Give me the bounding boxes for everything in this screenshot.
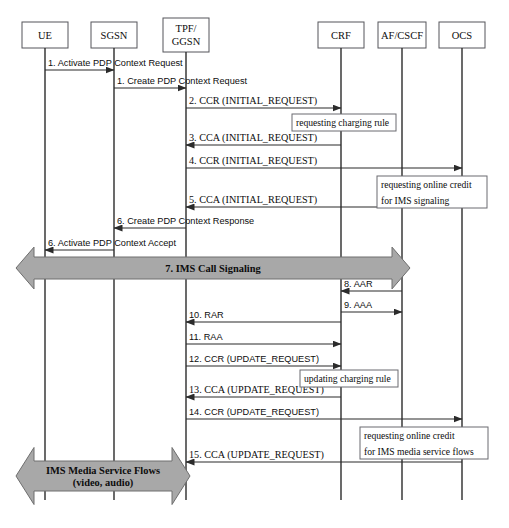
sequence-diagram: UESGSNTPF/GGSNCRFAF/CSCFOCS 1. Activate … xyxy=(0,0,509,528)
note-media-credit: requesting online creditfor IMS media se… xyxy=(360,427,488,459)
band-ims-media-flows-shape xyxy=(16,448,190,505)
note-media-credit-line-0: requesting online credit xyxy=(364,430,455,441)
message-4: 4. CCR (INITIAL_REQUEST) xyxy=(186,155,462,168)
band-ims-media-flows-label-0: IMS Media Service Flows xyxy=(46,465,160,476)
message-label-11: 11. RAA xyxy=(189,332,223,342)
sequence-diagram-canvas: UESGSNTPF/GGSNCRFAF/CSCFOCS 1. Activate … xyxy=(0,0,509,528)
message-label-12: 12. CCR (UPDATE_REQUEST) xyxy=(189,354,319,364)
message-6b: 6. Activate PDP Context Accept xyxy=(45,238,176,250)
message-label-9: 9. AAA xyxy=(344,300,373,310)
note-updating-rule: updating charging rule xyxy=(300,370,398,387)
message-label-1b: 1. Create PDP Context Request xyxy=(117,76,248,86)
message-label-5: 5. CCA (INITIAL_REQUEST) xyxy=(189,194,317,206)
band-ims-media-flows-label-1: (video, audio) xyxy=(73,477,134,489)
band-ims-media-flows: IMS Media Service Flows(video, audio) xyxy=(16,448,190,505)
lifeline-label2-ggsn: GGSN xyxy=(172,36,201,47)
message-10: 10. RAR xyxy=(186,310,341,322)
message-label-8: 8. AAR xyxy=(344,279,373,289)
lifeline-label-sgsn: SGSN xyxy=(101,30,128,41)
note-online-credit-line-0: requesting online credit xyxy=(381,179,472,190)
message-2: 2. CCR (INITIAL_REQUEST) xyxy=(186,95,341,108)
message-label-15: 15. CCA (UPDATE_REQUEST) xyxy=(189,449,324,461)
message-12: 12. CCR (UPDATE_REQUEST) xyxy=(186,354,341,366)
message-label-3: 3. CCA (INITIAL_REQUEST) xyxy=(189,132,317,144)
message-label-4: 4. CCR (INITIAL_REQUEST) xyxy=(189,155,317,167)
band-ims-call-signaling-label-0: 7. IMS Call Signaling xyxy=(165,263,261,274)
message-9: 9. AAA xyxy=(341,300,402,312)
message-label-6: 6. Create PDP Context Response xyxy=(117,216,254,226)
lifeline-label-crf: CRF xyxy=(331,30,351,41)
lifeline-label-ue: UE xyxy=(38,30,52,41)
note-group: requesting charging rulerequesting onlin… xyxy=(292,114,488,459)
message-3: 3. CCA (INITIAL_REQUEST) xyxy=(186,132,341,145)
note-charging-rule: requesting charging rule xyxy=(292,114,396,131)
note-online-credit-line-1: for IMS signaling xyxy=(381,195,449,206)
lifeline-label-ggsn: TPF/ xyxy=(175,23,196,34)
note-media-credit-line-1: for IMS media service flows xyxy=(364,446,474,457)
note-online-credit: requesting online creditfor IMS signalin… xyxy=(377,176,487,208)
message-label-1: 1. Activate PDP Context Request xyxy=(48,58,183,68)
lifeline-label-af: AF/CSCF xyxy=(381,30,423,41)
message-label-6b: 6. Activate PDP Context Accept xyxy=(48,238,176,248)
message-1b: 1. Create PDP Context Request xyxy=(114,76,248,88)
message-6: 6. Create PDP Context Response xyxy=(114,216,254,228)
lifeline-label-ocs: OCS xyxy=(452,30,473,41)
message-11: 11. RAA xyxy=(186,332,341,344)
message-label-10: 10. RAR xyxy=(189,310,224,320)
message-label-14: 14. CCR (UPDATE_REQUEST) xyxy=(189,407,319,417)
message-14: 14. CCR (UPDATE_REQUEST) xyxy=(186,407,462,419)
note-charging-rule-line-0: requesting charging rule xyxy=(296,117,389,128)
note-updating-rule-line-0: updating charging rule xyxy=(304,373,391,384)
message-label-2: 2. CCR (INITIAL_REQUEST) xyxy=(189,95,317,107)
